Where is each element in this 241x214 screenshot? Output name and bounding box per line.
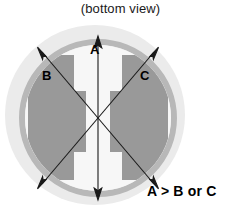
relation-note: A > B or C [147, 183, 217, 199]
dimension-label-a: A [90, 43, 99, 56]
bottom-view-diagram [0, 0, 241, 214]
page-title: (bottom view) [0, 1, 241, 16]
dimension-label-b: B [42, 69, 51, 82]
figure-canvas: (bottom view) A B C A > B or C [0, 0, 241, 214]
dimension-label-c: C [140, 69, 149, 82]
